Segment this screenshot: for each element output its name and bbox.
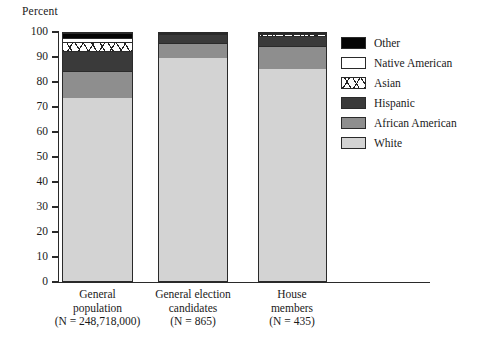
legend-swatch-icon xyxy=(341,57,366,69)
bar-segment-other xyxy=(63,33,132,38)
bar-segment-native-american xyxy=(63,38,132,42)
bar-3 xyxy=(258,32,327,282)
legend-swatch-icon xyxy=(341,97,366,109)
legend-item-asian[interactable]: Asian xyxy=(341,73,457,93)
bar-segment-african-american xyxy=(63,71,132,99)
y-tick-label: 0 xyxy=(18,275,48,287)
bar-segment-white xyxy=(159,58,227,282)
legend-label: Native American xyxy=(374,57,452,69)
legend-item-white[interactable]: White xyxy=(341,133,457,153)
bar-segment-asian xyxy=(63,42,132,51)
y-tick-label: 10 xyxy=(18,250,48,262)
bar-segment-african-american xyxy=(259,46,326,70)
bar-2 xyxy=(158,32,228,282)
legend-swatch-icon xyxy=(341,137,366,149)
y-tick-label: 90 xyxy=(18,50,48,62)
y-axis-title: Percent xyxy=(22,5,58,17)
y-tick-label: 100 xyxy=(18,25,48,37)
legend-swatch-icon xyxy=(341,37,366,49)
bar-segment-hispanic xyxy=(159,34,227,43)
x-axis-label-line: House xyxy=(237,288,347,302)
legend-swatch-icon xyxy=(341,117,366,129)
bar-segment-white xyxy=(63,98,132,282)
bar-1 xyxy=(62,32,133,282)
y-tick-label: 50 xyxy=(18,150,48,162)
bar-segment-white xyxy=(259,69,326,282)
legend: OtherNative AmericanAsianHispanicAfrican… xyxy=(341,33,457,153)
y-tick-label: 80 xyxy=(18,75,48,87)
legend-item-other[interactable]: Other xyxy=(341,33,457,53)
legend-label: Hispanic xyxy=(374,97,415,109)
x-axis-label-line: (N = 435) xyxy=(237,315,347,329)
y-tick-label: 60 xyxy=(18,125,48,137)
bar-segment-native-american xyxy=(159,33,227,34)
bar-segment-hispanic xyxy=(63,51,132,71)
bar-segment-hispanic xyxy=(259,36,326,46)
legend-label: White xyxy=(374,137,402,149)
y-tick-label: 20 xyxy=(18,225,48,237)
legend-item-native-american[interactable]: Native American xyxy=(341,53,457,73)
y-tick-label: 30 xyxy=(18,200,48,212)
y-tick-label: 40 xyxy=(18,175,48,187)
y-tick-label: 70 xyxy=(18,100,48,112)
bar-segment-other xyxy=(259,33,326,34)
legend-label: Other xyxy=(374,37,400,49)
legend-label: African American xyxy=(374,117,457,129)
legend-label: Asian xyxy=(374,77,401,89)
stacked-bar-chart: Percent 1009080706050403020100 Generalpo… xyxy=(0,0,480,347)
legend-swatch-icon xyxy=(341,77,366,89)
legend-item-hispanic[interactable]: Hispanic xyxy=(341,93,457,113)
x-axis-label-line: members xyxy=(237,302,347,316)
bar-segment-african-american xyxy=(159,43,227,58)
x-axis-label-3: Housemembers(N = 435) xyxy=(237,288,347,329)
legend-item-african-american[interactable]: African American xyxy=(341,113,457,133)
